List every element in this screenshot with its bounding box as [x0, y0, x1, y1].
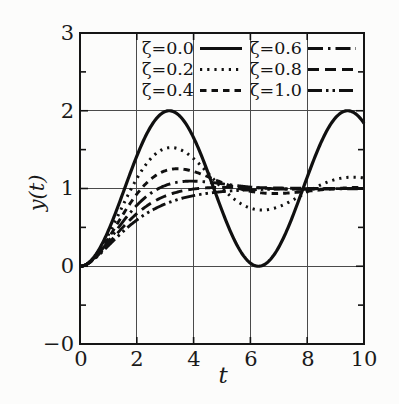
- legend-item-zeta-0-2: ζ=0.2: [142, 59, 243, 79]
- x-tick-label-10: 10: [351, 347, 378, 371]
- y-tick-label-neg0: −0: [28, 331, 74, 357]
- x-tick-label-0: 0: [74, 347, 87, 371]
- y-tick-label-3: 3: [28, 20, 74, 46]
- legend-line-swatch: [199, 65, 243, 74]
- x-tick-label-2: 2: [130, 347, 143, 371]
- legend-label: ζ=0.4: [142, 80, 194, 100]
- legend-item-zeta-0-6: ζ=0.6: [250, 38, 357, 58]
- step-response-figure: 3 2 1 0 −0 0 2 4 6 8 10 y(t) t ζ=0.0 ζ=0…: [0, 0, 399, 404]
- legend-label: ζ=0.6: [250, 38, 302, 58]
- x-tick-label-4: 4: [187, 347, 200, 371]
- legend-item-zeta-0-0: ζ=0.0: [142, 38, 243, 58]
- x-axis-label: t: [218, 362, 227, 388]
- y-tick-label-2: 2: [28, 98, 74, 124]
- legend-label: ζ=0.2: [142, 59, 194, 79]
- legend-label: ζ=1.0: [250, 80, 302, 100]
- x-tick-label-8: 8: [301, 347, 314, 371]
- legend-item-zeta-1-0: ζ=1.0: [250, 80, 357, 100]
- legend-line-swatch: [307, 86, 357, 95]
- y-tick-label-0: 0: [28, 253, 74, 279]
- legend-line-swatch: [199, 44, 243, 53]
- legend-line-swatch: [307, 44, 357, 53]
- x-tick-label-6: 6: [244, 347, 257, 371]
- legend-label: ζ=0.0: [142, 38, 194, 58]
- legend-item-zeta-0-4: ζ=0.4: [142, 80, 243, 100]
- legend-item-zeta-0-8: ζ=0.8: [250, 59, 357, 79]
- legend-line-swatch: [199, 86, 243, 95]
- legend-label: ζ=0.8: [250, 59, 302, 79]
- legend-line-swatch: [307, 65, 357, 74]
- y-axis-label: y(t): [25, 175, 49, 212]
- curve-zeta-0-8: [80, 187, 364, 266]
